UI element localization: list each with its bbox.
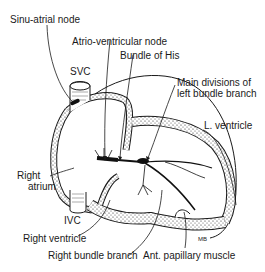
artist-signature: MB: [198, 234, 207, 245]
papillary-muscle: [175, 210, 190, 218]
label-bundle-his: Bundle of His: [120, 50, 179, 61]
ivc-vessel: [70, 190, 86, 213]
label-right-atrium-1: Right: [17, 170, 40, 181]
label-ivc: IVC: [64, 215, 81, 226]
label-svc: SVC: [70, 66, 91, 77]
lv-upper-wall: [132, 121, 231, 222]
av-node: [97, 158, 118, 160]
svc-vessel: [70, 82, 90, 113]
label-main-divisions-1: Main divisions of: [177, 77, 251, 88]
label-right-bundle-branch: Right bundle branch: [48, 250, 138, 261]
label-right-atrium-2: atrium: [28, 181, 56, 192]
label-ant-papillary-muscle: Ant. papillary muscle: [143, 250, 235, 261]
leader-papillary: [184, 212, 186, 248]
label-right-ventricle: Right ventricle: [23, 233, 86, 244]
label-l-ventricle: L. ventricle: [204, 120, 252, 131]
label-main-divisions-2: left bundle branch: [177, 88, 257, 99]
label-sa-node: Sinu-atrial node: [10, 14, 80, 25]
leader-sa-node: [47, 25, 73, 102]
right-bundle-branch-path: [145, 163, 195, 210]
label-av-node: Atrio-ventricular node: [72, 36, 167, 47]
